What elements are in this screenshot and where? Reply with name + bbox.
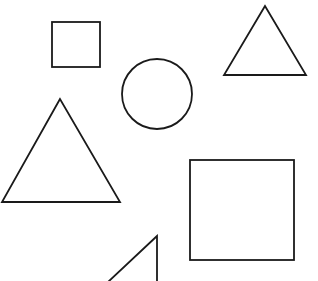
large-square (190, 160, 294, 260)
top-right-triangle (224, 6, 306, 75)
small-square (52, 22, 100, 67)
bottom-partial-triangle (108, 236, 157, 281)
circle (122, 59, 192, 129)
shapes-canvas (0, 0, 318, 281)
large-triangle (2, 99, 120, 202)
